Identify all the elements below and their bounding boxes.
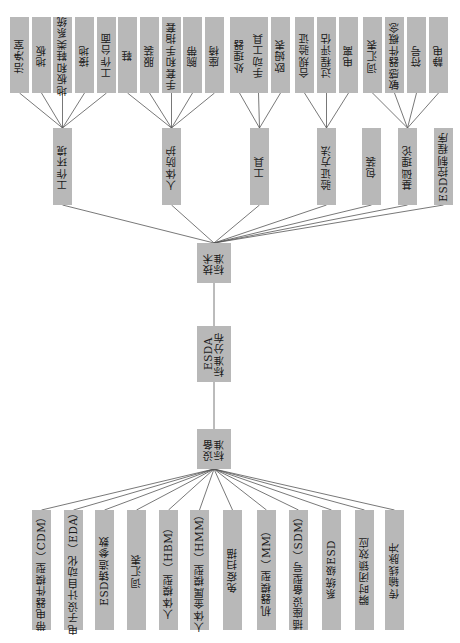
device-item-7-label: 机器模型（MM）	[261, 524, 272, 616]
leaf-basics-0: 词汇表	[363, 17, 382, 93]
device-item-5: 人体金属模型（HMM）	[190, 510, 209, 630]
leaf-body_protect-2: 手套和手指套	[162, 17, 181, 93]
leaf-work_env-3-label: 接地	[79, 44, 90, 67]
device-item-2: ESD铸造参数	[95, 510, 114, 630]
category-package: 包装	[362, 128, 381, 205]
category-body_protect-label: 人体防护	[166, 144, 177, 190]
leaf-body_protect-0-label: 鞋	[122, 49, 133, 61]
category-verify: 验证方法	[317, 128, 336, 205]
device-item-9-label: 系统级ESD	[326, 540, 337, 599]
node-esda-root-label: ESDA 标准分布	[203, 331, 225, 377]
device-item-11: 传输线脉冲	[385, 510, 404, 630]
leaf-tools-0: 处理器	[230, 17, 249, 93]
category-work_env: 工作环境	[53, 128, 72, 205]
leaf-basics-3-label: 静电	[433, 44, 444, 67]
leaf-body_protect-4-label: 座椅	[209, 44, 220, 67]
leaf-verify-1: 过程评估	[317, 17, 336, 93]
category-verify-label: 验证方法	[321, 144, 332, 190]
device-item-10: 瞬时闭锁效应	[355, 510, 374, 630]
leaf-work_env-4: 工作台面	[97, 17, 116, 93]
leaf-tools-2-label: 欧姆表	[275, 38, 286, 73]
device-item-6-label: 免疫扫描	[227, 547, 238, 593]
device-item-3-label: 词汇表	[131, 553, 142, 588]
leaf-body_protect-1-label: 服装	[144, 44, 155, 67]
leaf-verify-1-label: 过程评估	[321, 32, 332, 78]
device-item-0-label: 带电器件模型（CDM）	[36, 510, 47, 631]
device-item-11-label: 传输线脉冲	[389, 541, 400, 599]
leaf-basics-2: 符号	[407, 17, 426, 93]
device-item-7: 机器模型（MM）	[257, 510, 276, 630]
category-basics: 基础理论	[398, 128, 417, 205]
node-tech-standard-label: 技术 标准	[203, 252, 225, 275]
leaf-basics-2-label: 符号	[411, 44, 422, 67]
leaf-verify-2: 电离	[339, 17, 358, 93]
device-item-5-label: 人体金属模型（HMM）	[194, 508, 205, 632]
leaf-body_protect-4: 座椅	[205, 17, 224, 93]
device-item-1: 电子设计自动化（EDA）	[64, 510, 83, 630]
category-package-label: 包装	[366, 155, 377, 178]
leaf-verify-0: 合规验证	[295, 17, 314, 93]
leaf-work_env-2: 地板和鞋类系统	[53, 17, 72, 93]
leaf-basics-1-label: 敏感器件概念	[389, 21, 400, 90]
leaf-body_protect-0: 鞋	[118, 17, 137, 93]
category-body_protect: 人体防护	[162, 128, 181, 205]
category-tools: 工具	[250, 128, 269, 205]
leaf-basics-3: 静电	[429, 17, 448, 93]
node-esda-root: ESDA 标准分布	[197, 326, 231, 382]
device-item-4-label: 人体模型（HBM）	[163, 521, 174, 619]
device-item-8-label: 插座设备型号（SDM）	[293, 510, 304, 630]
category-work_env-label: 工作环境	[57, 144, 68, 190]
device-item-9: 系统级ESD	[322, 510, 341, 630]
node-device-standard-label: 设备 标准	[203, 438, 225, 461]
leaf-tools-0-label: 处理器	[234, 38, 245, 73]
leaf-basics-0-label: 词汇表	[367, 38, 378, 73]
device-item-1-label: 电子设计自动化（EDA）	[68, 506, 79, 635]
leaf-work_env-4-label: 工作台面	[101, 32, 112, 78]
leaf-work_env-1: 地板	[32, 17, 51, 93]
leaf-body_protect-2-label: 手套和手指套	[166, 21, 177, 90]
leaf-basics-1: 敏感器件概念	[385, 17, 404, 93]
device-item-3: 词汇表	[127, 510, 146, 630]
device-item-6: 免疫扫描	[223, 510, 242, 630]
category-esd_program-label: ESD控制程序	[438, 131, 449, 202]
category-basics-label: 基础理论	[402, 144, 413, 190]
device-item-2-label: ESD铸造参数	[99, 535, 110, 606]
leaf-tools-1: 手动工具	[249, 17, 268, 93]
leaf-verify-0-label: 合规验证	[299, 32, 310, 78]
category-tools-label: 工具	[254, 155, 265, 178]
leaf-tools-1-label: 手动工具	[253, 32, 264, 78]
node-device-standard: 设备 标准	[197, 429, 231, 469]
device-item-8: 插座设备型号（SDM）	[289, 510, 308, 630]
device-item-10-label: 瞬时闭锁效应	[359, 536, 370, 605]
leaf-tools-2: 欧姆表	[271, 17, 290, 93]
leaf-body_protect-3-label: 腕带	[187, 44, 198, 67]
device-item-4: 人体模型（HBM）	[159, 510, 178, 630]
device-item-0: 带电器件模型（CDM）	[32, 510, 51, 630]
leaf-body_protect-1: 服装	[140, 17, 159, 93]
leaf-work_env-1-label: 地板	[36, 44, 47, 67]
leaf-work_env-0-label: 洁净室	[14, 38, 25, 73]
leaf-work_env-3: 接地	[75, 17, 94, 93]
leaf-body_protect-3: 腕带	[183, 17, 202, 93]
leaf-verify-2-label: 电离	[343, 44, 354, 67]
leaf-work_env-2-label: 地板和鞋类系统	[57, 15, 68, 96]
leaf-work_env-0: 洁净室	[10, 17, 29, 93]
category-esd_program: ESD控制程序	[434, 128, 453, 205]
node-tech-standard: 技术 标准	[197, 243, 231, 283]
